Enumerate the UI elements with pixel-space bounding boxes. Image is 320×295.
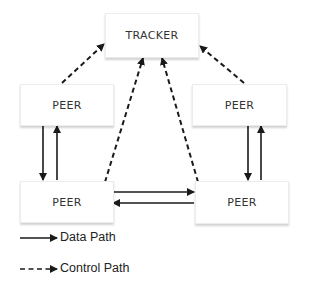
- peer-label: PEER: [225, 99, 254, 112]
- peer-top-left-node: PEER: [20, 84, 114, 126]
- peer-label: PEER: [52, 196, 81, 209]
- legend-control-path-label: Control Path: [60, 261, 129, 275]
- peer-label: PEER: [227, 196, 256, 209]
- legend-data-path-label: Data Path: [60, 230, 116, 244]
- control-edge-topleft-tracker: [62, 44, 104, 83]
- peer-bottom-left-node: PEER: [20, 181, 114, 223]
- peer-label: PEER: [52, 99, 81, 112]
- tracker-node: TRACKER: [105, 13, 199, 58]
- control-edge-topright-tracker: [200, 46, 244, 83]
- peer-top-right-node: PEER: [192, 84, 287, 126]
- tracker-label: TRACKER: [126, 29, 179, 42]
- peer-bottom-right-node: PEER: [195, 181, 289, 224]
